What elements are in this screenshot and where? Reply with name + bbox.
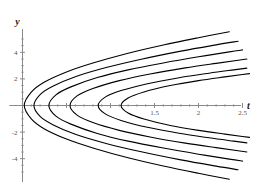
axes bbox=[9, 29, 241, 182]
y-axis-label: y bbox=[14, 16, 20, 27]
y-tick-label: -2 bbox=[12, 129, 18, 137]
x-axis-label: t bbox=[247, 100, 251, 111]
x-tick-label: 2.5 bbox=[238, 109, 247, 117]
y-tick-label: 2 bbox=[14, 75, 18, 83]
x-tick-label: 1.5 bbox=[150, 109, 159, 117]
plot-canvas: 1.522.5-4-224 t y bbox=[0, 0, 271, 196]
y-tick-label: -4 bbox=[12, 155, 18, 163]
direction-field-chart: 1.522.5-4-224 t y bbox=[0, 0, 271, 196]
y-tick-label: 4 bbox=[14, 49, 18, 57]
x-tick-label: 2 bbox=[197, 109, 201, 117]
